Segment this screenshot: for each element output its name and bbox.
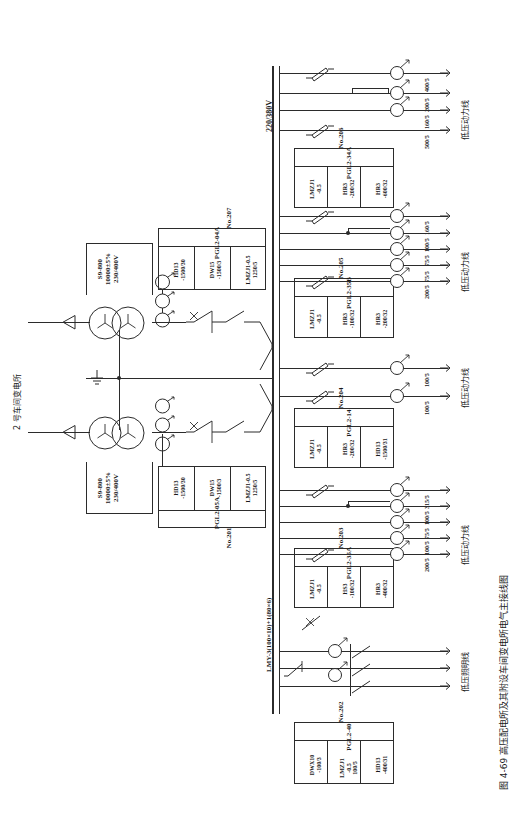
feeder-group-206-label: 低压动力线	[462, 252, 470, 292]
feeder-207-4-ratio: 500/5	[424, 135, 430, 149]
feeder-205-2-arrow	[440, 391, 452, 402]
panel-205-dev-divider-1	[327, 296, 328, 338]
lighting-switch-1	[352, 644, 378, 662]
lighting-bus-drop	[350, 644, 351, 696]
feeder-207-2-tap	[352, 88, 388, 89]
panel-207-cabinet-divider	[158, 246, 266, 247]
panel-202-device-3: DWX10-100/3	[309, 745, 325, 785]
panel-202-cabinet-divider	[294, 740, 394, 741]
panel-204-cabinet-divider	[294, 426, 394, 427]
transformer-top-neutral-drop	[119, 330, 120, 379]
panel-207-device-3: HD13-1500/30	[173, 250, 189, 290]
hv-arrow-top	[62, 315, 78, 331]
feeder-204-4-line	[280, 538, 448, 539]
feeder-top-horizontal	[152, 322, 186, 323]
panel-201-device-1: LMZJ1-0.51250/5	[245, 468, 261, 508]
feeder-206-3-line	[280, 249, 448, 250]
panel-206-device-2: HR3-200/32	[342, 169, 358, 209]
fuse-204-1-icon	[306, 483, 334, 498]
fuse-206-5-icon	[306, 274, 334, 289]
feeder-206-4-line	[280, 265, 448, 266]
feeder-207-1-ratio: 400/5	[424, 78, 430, 92]
feeder-202-1-arrow	[440, 646, 452, 657]
feeder-group-207-label: 低压动力线	[462, 100, 470, 140]
ct-206-3-lead	[400, 234, 414, 246]
ct-204-2-lead	[400, 491, 414, 503]
hv-incoming-line-bottom	[28, 432, 90, 433]
feeder-207-2-tap-l	[352, 88, 353, 94]
feeder-206-2-line	[280, 233, 448, 234]
panel-203-dev-divider-2	[360, 566, 361, 608]
feeder-206-5-ratio: 200/5	[424, 285, 430, 299]
panel-201-dev-divider-2	[230, 466, 231, 510]
ct-205-1-lead	[400, 353, 414, 365]
panel-207-dev-divider-2	[230, 246, 231, 290]
feeder-207-3-arrow	[440, 105, 452, 116]
disconnect-switch-top	[220, 307, 260, 337]
lighting-bus-disconnect	[284, 660, 308, 680]
feeder-204-4-arrow	[440, 533, 452, 544]
panel-204-device-1: HD13-1500/31	[375, 429, 391, 469]
bus-tie-bottom	[258, 384, 278, 432]
fuse-205-1-icon	[306, 361, 334, 376]
ct-204-5-lead	[400, 539, 414, 551]
feeder-207-1-arrow	[440, 68, 452, 79]
fuse-205-2-icon	[306, 389, 334, 404]
feeder-group-204-label: 低压动力线	[462, 525, 470, 565]
transformer-bottom-neutral-drop	[119, 378, 120, 430]
panel-201-device-2: DW15-1500/3	[209, 468, 225, 508]
hv-voltage-label: 220/380V	[266, 100, 274, 132]
panel-202-device-1: HD13-400/31	[375, 745, 391, 785]
feeder-206-2-tap	[348, 228, 390, 229]
panel-201-number: No.201	[226, 518, 238, 558]
feeder-207-2-arrow	[440, 88, 452, 99]
feeder-206-3-arrow	[440, 244, 452, 255]
disconnect-switch-bottom	[220, 417, 260, 447]
lv-main-busbar-inner	[279, 66, 280, 714]
panel-206-dev-divider-2	[360, 166, 361, 208]
ct-riser-bottom	[162, 434, 163, 466]
feeder-205-2-ratio: 100/5	[424, 401, 430, 415]
panel-205-device-2: HR3-100/32	[342, 299, 358, 339]
figure-caption: 图 4-69 高压配电所及其附设车间变电所电气主接线图	[500, 575, 509, 790]
feeder-204-3-line	[280, 522, 448, 523]
ct-206-5-lead	[400, 266, 414, 278]
panel-205-device-1: HR3-200/32	[375, 299, 391, 339]
panel-204-device-3: LMZJ1-0.5	[309, 429, 325, 469]
ct-206-4-lead	[400, 250, 414, 262]
feeder-207-2-tap-r	[388, 88, 389, 94]
neutral-junction-dot	[117, 376, 121, 380]
panel-203-device-3: LMZJ1-0.5	[309, 569, 325, 609]
panel-207-device-1: LMZJ1-0.51250/5	[245, 250, 261, 290]
panel-203-switch-1	[300, 612, 330, 634]
panel-202-dev-divider-1	[327, 740, 328, 784]
feeder-204-5-arrow	[440, 549, 452, 560]
panel-206-device-3: LMZJ1-0.5	[309, 169, 325, 209]
panel-202-device-2: LMZJ1-0.5100/5	[339, 748, 361, 788]
feeder-207-4-arrow	[440, 125, 452, 136]
ct-206-1-lead	[400, 201, 414, 213]
panel-206-cabinet-divider	[294, 166, 394, 167]
transformer-bottom-symbol	[88, 410, 152, 456]
feeder-204-2-tap	[348, 501, 390, 502]
panel-201-dev-divider-1	[194, 466, 195, 510]
ct-204-1-lead	[400, 475, 414, 487]
feeder-204-2-arrow	[440, 501, 452, 512]
panel-205-dev-divider-2	[360, 296, 361, 338]
feeder-group-202-label: 低压照明线	[462, 652, 470, 692]
circuit-breaker-top	[186, 307, 220, 337]
feeder-204-2-line	[280, 506, 448, 507]
panel-205-device-3: LMZJ1-0.5	[309, 299, 325, 339]
bus-tie-top	[258, 322, 278, 370]
feeder-206-2-dot	[346, 231, 350, 235]
panel-207-number: No.207	[226, 198, 238, 238]
hv-incoming-line-top	[28, 322, 90, 323]
panel-206-dev-divider-1	[327, 166, 328, 208]
feeder-205-1-ratio: 100/5	[424, 373, 430, 387]
feeder-204-1-arrow	[440, 485, 452, 496]
hv-arrow-bottom	[62, 425, 78, 441]
ct-205-2-lead	[400, 381, 414, 393]
feeder-202-3-arrow	[440, 681, 452, 692]
transformer-bottom-model: S9-800 10000±5% 230/400V	[96, 462, 148, 514]
panel-201-device-3: HD13-1500/30	[173, 468, 189, 508]
